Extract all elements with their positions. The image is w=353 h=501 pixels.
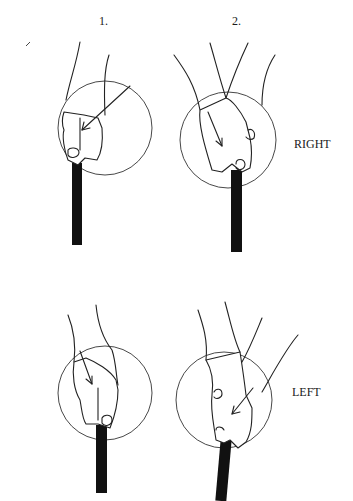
panel-left-2 bbox=[176, 302, 298, 501]
arrow-icon bbox=[82, 86, 130, 130]
panel-left-1 bbox=[58, 305, 152, 493]
panel-right-1 bbox=[58, 42, 152, 245]
handle-bar bbox=[96, 425, 107, 493]
panel-right-2 bbox=[174, 43, 276, 252]
scan-artifact bbox=[26, 42, 30, 46]
handle-bar bbox=[215, 440, 231, 501]
grip-diagram bbox=[0, 0, 353, 501]
handle-bar bbox=[231, 170, 242, 252]
handle-bar bbox=[72, 163, 82, 245]
